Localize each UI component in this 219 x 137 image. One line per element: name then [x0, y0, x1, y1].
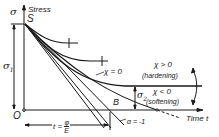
x-axis-label: Time t	[186, 115, 208, 123]
origin-point	[23, 109, 26, 112]
line-steep-2	[25, 24, 111, 128]
chi-negative-label: χ < 0	[153, 88, 171, 96]
chi-zero-label: χ = 0	[104, 68, 122, 76]
start-point-label: S	[27, 14, 34, 24]
chi-positive-label: χ > 0	[154, 61, 172, 69]
time-axis-arrow	[197, 109, 203, 112]
hardening-label: (hardening)	[142, 72, 178, 79]
stress-axis-arrow	[23, 5, 26, 10]
sigma1-label: σ1	[3, 61, 14, 73]
softening-label: (softening)	[146, 98, 179, 105]
line-steep-1	[25, 24, 104, 128]
t-equation-label: t = φ E	[52, 119, 70, 134]
point-b-label: B	[113, 98, 119, 107]
stress-relaxation-diagram: σ Stress S O Time t σ1 σ2 χ = 0 χ > 0 (h…	[0, 0, 219, 137]
origin-label: O	[13, 111, 21, 121]
softening-dashed-extension	[157, 110, 180, 118]
alpha-label: α = -1	[127, 118, 145, 125]
y-axis-symbol: σ	[10, 7, 17, 17]
